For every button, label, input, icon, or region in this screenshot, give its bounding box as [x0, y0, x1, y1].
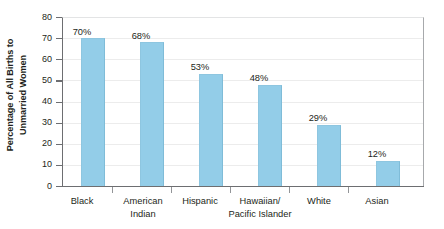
bar-hispanic[interactable]	[199, 74, 223, 186]
x-label-hispanic: Hispanic	[174, 195, 226, 208]
x-tick-mark-2	[171, 187, 172, 193]
y-tick-label-10: 10	[12, 160, 52, 169]
y-tick-label-70: 70	[12, 34, 52, 43]
gridline-20	[63, 144, 423, 145]
gridline-40	[63, 102, 423, 103]
bar-value-american-indian: 68%	[119, 31, 163, 41]
x-label-hispanic-line-1: Hispanic	[182, 196, 218, 206]
x-label-american-indian: American Indian	[113, 195, 173, 220]
x-label-white: White	[294, 195, 344, 208]
gridline-60	[63, 59, 423, 60]
bar-value-hispanic: 53%	[178, 62, 222, 72]
x-label-asian-line-1: Asian	[365, 196, 388, 206]
x-tick-mark-3	[230, 187, 231, 193]
x-label-asian: Asian	[352, 195, 402, 208]
bar-hawaiian-pacific-islander[interactable]	[258, 85, 282, 186]
gridline-70	[63, 38, 423, 39]
y-tick-label-20: 20	[12, 139, 52, 148]
bar-white[interactable]	[317, 125, 341, 186]
y-tick-label-80: 80	[12, 13, 52, 22]
x-tick-mark-4	[289, 187, 290, 193]
bar-chart: Percentage of All Births to Unmarried Wo…	[0, 0, 444, 229]
x-axis-line	[62, 186, 424, 187]
gridline-10	[63, 165, 423, 166]
bar-black[interactable]	[81, 38, 105, 186]
bar-value-white: 29%	[296, 113, 340, 123]
y-tick-label-30: 30	[12, 118, 52, 127]
x-label-black-line-1: Black	[71, 196, 94, 206]
x-label-american-indian-line-2: Indian	[113, 208, 173, 221]
x-label-hawaiian-pacific-islander-line-1: Hawaiian/	[240, 196, 281, 206]
plot-area	[62, 17, 424, 186]
bar-value-hawaiian-pacific-islander: 48%	[237, 73, 281, 83]
x-tick-mark-5	[348, 187, 349, 193]
y-tick-label-50: 50	[12, 76, 52, 85]
y-tick-label-40: 40	[12, 97, 52, 106]
y-tick-label-60: 60	[12, 55, 52, 64]
x-label-white-line-1: White	[307, 196, 331, 206]
x-label-black: Black	[58, 195, 106, 208]
y-tick-label-0: 0	[12, 182, 52, 191]
bar-american-indian[interactable]	[140, 42, 164, 186]
x-label-hawaiian-pacific-islander: Hawaiian/ Pacific Islander	[226, 195, 294, 220]
bar-asian[interactable]	[376, 161, 400, 186]
x-label-hawaiian-pacific-islander-line-2: Pacific Islander	[226, 208, 294, 221]
bar-value-asian: 12%	[355, 149, 399, 159]
gridline-30	[63, 123, 423, 124]
x-label-american-indian-line-1: American	[123, 196, 162, 206]
bar-value-black: 70%	[60, 27, 104, 37]
x-tick-mark-1	[112, 187, 113, 193]
